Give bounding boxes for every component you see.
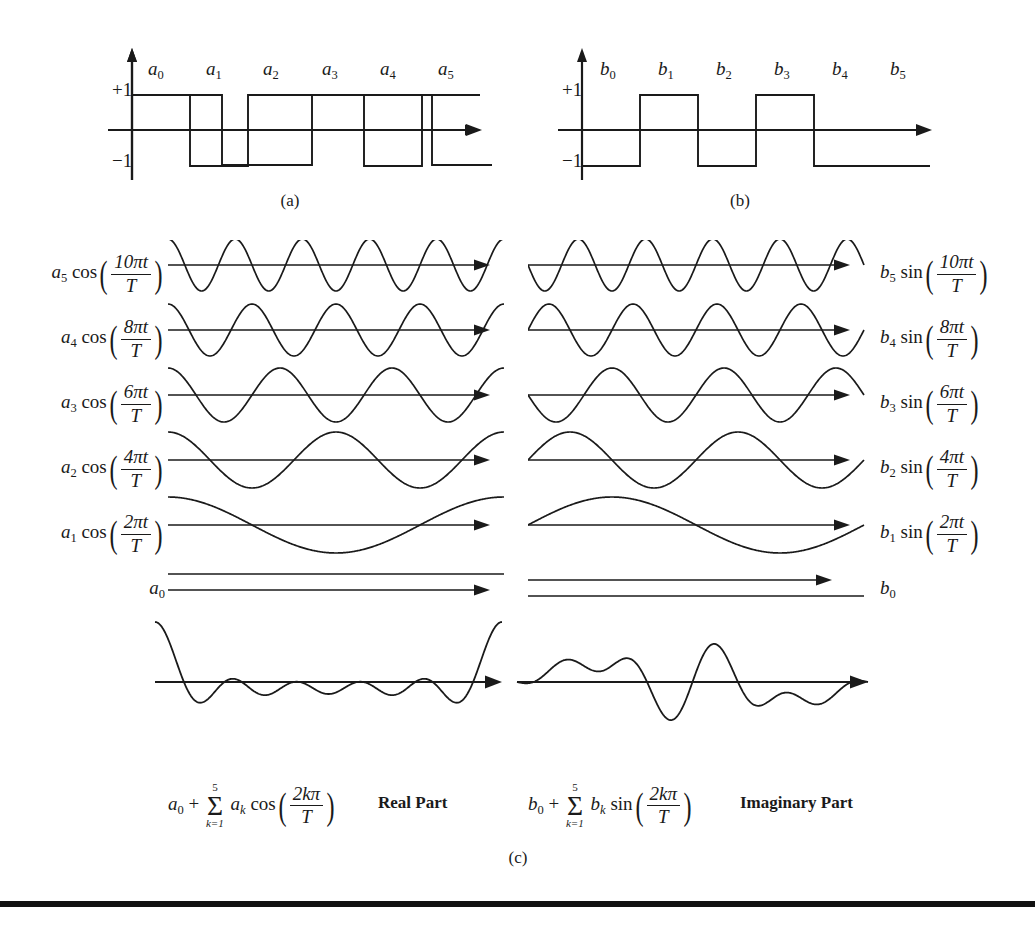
panel-b-ytick-minus-one: −1: [562, 150, 582, 172]
right-row-label-b0: b0: [880, 578, 896, 600]
right-row-4-arrowhead: [834, 325, 850, 336]
right-row-3-arrowhead: [834, 390, 850, 401]
panel-a-coeff-label-a1: a1: [206, 58, 222, 83]
panel-b-coeff-label-b0: b0: [600, 58, 616, 83]
panel-b-ytick-plus-one: +1: [562, 79, 582, 101]
panel-a-coeff-label-a0: a0: [148, 58, 164, 83]
right-row-label-b4: b4 sin(8πtT): [880, 317, 981, 361]
left-composite-waveform-plot: [150, 620, 510, 760]
left-row-label-a1: a1 cos(2πtT): [20, 512, 165, 556]
right-row-5-arrowhead: [834, 260, 850, 271]
panel-b-coeff-label-b4: b4: [832, 58, 848, 83]
right-row-label-b2: b2 sin(4πtT): [880, 447, 981, 491]
right-sum-formula: b0 + 5Σk=1 bk sin(2kπT): [528, 782, 694, 829]
left-row-label-a0: a0: [20, 578, 165, 600]
panel-b-coeff-label-b3: b3: [774, 58, 790, 83]
left-row-label-a2: a2 cos(4πtT): [20, 447, 165, 491]
real-part-label: Real Part: [378, 793, 447, 813]
panel-b-coeff-label-b2: b2: [716, 58, 732, 83]
fourier-series-figure: +1 −1 a0 a1 a2 a3 a4 a5 (a) +1 −1 b0 b1: [0, 0, 1035, 926]
left-row-1-arrowhead: [474, 520, 490, 531]
panel-b-coeff-label-b5: b5: [890, 58, 906, 83]
right-row-2-arrowhead: [834, 455, 850, 466]
left-row-label-a5: a5 cos(10πtT): [20, 252, 165, 296]
left-row-2-arrowhead: [474, 455, 490, 466]
left-harmonic-waveforms: [168, 240, 508, 630]
panel-a-ytick-plus-one: +1: [112, 79, 132, 101]
right-row-label-b1: b1 sin(2πtT): [880, 512, 981, 556]
panel-a-caption: (a): [230, 191, 350, 211]
panel-a-ytick-minus-one: −1: [112, 150, 132, 172]
panel-b-caption: (b): [680, 191, 800, 211]
left-row-0-arrowhead: [474, 585, 490, 596]
left-composite-arrowhead: [485, 676, 502, 689]
panel-a-coeff-label-a4: a4: [380, 58, 396, 83]
right-row-label-b3: b3 sin(6πtT): [880, 382, 981, 426]
right-harmonic-waveforms: [528, 240, 868, 630]
left-row-label-a3: a3 cos(6πtT): [20, 382, 165, 426]
panel-c-caption: (c): [458, 848, 578, 868]
left-sum-formula: a0 + 5Σk=1 ak cos(2kπT): [168, 782, 337, 829]
panel-b-coeff-label-b1: b1: [658, 58, 674, 83]
panel-a-coeff-label-a3: a3: [322, 58, 338, 83]
left-row-4-arrowhead: [474, 325, 490, 336]
right-row-1-arrowhead: [834, 520, 850, 531]
panel-a-coeff-label-a2: a2: [263, 58, 279, 83]
page-bottom-rule: [0, 901, 1035, 907]
right-row-0-arrowhead: [816, 575, 832, 586]
imaginary-part-label: Imaginary Part: [740, 793, 853, 813]
left-row-label-a4: a4 cos(8πtT): [20, 317, 165, 361]
right-row-label-b5: b5 sin(10πtT): [880, 252, 990, 296]
panel-a-coeff-label-a5: a5: [438, 58, 454, 83]
panel-b-x-axis-arrowhead: [916, 124, 932, 136]
panel-b-y-axis-arrowhead: [577, 48, 587, 62]
left-composite-wave: [155, 622, 502, 703]
right-composite-waveform-plot: [512, 620, 882, 765]
